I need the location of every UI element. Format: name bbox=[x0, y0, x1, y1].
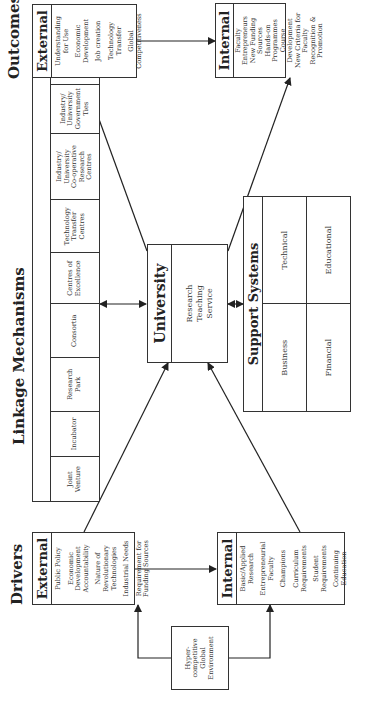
list-item: Course Development bbox=[280, 18, 294, 62]
outcomes-title: Outcomes bbox=[5, 0, 23, 79]
linkage-cells: Joint Venture Incubator Research Park Co… bbox=[51, 31, 99, 501]
drivers-internal-header: Internal bbox=[218, 533, 237, 604]
list-item: Public Policy bbox=[55, 547, 63, 590]
list-item: Economic Development bbox=[75, 19, 90, 63]
drivers-internal-list: Basic/Applied Research Entrepreneurial F… bbox=[237, 533, 354, 604]
support-cell-financial: Financial bbox=[307, 304, 350, 412]
list-item: Global Competitiveness bbox=[128, 13, 143, 68]
university-box: University Research Teaching Service bbox=[147, 244, 228, 363]
list-item: Recognition & Promotion bbox=[310, 16, 324, 64]
list-item: Student Requirements bbox=[313, 545, 328, 592]
linkage-title: Linkage Mechanisms bbox=[10, 267, 28, 445]
drivers-title: Drivers bbox=[8, 544, 26, 605]
outcomes-internal-header: Internal bbox=[216, 4, 234, 77]
outcomes-internal-list: Faculty Entrepreneurs New Funding Source… bbox=[234, 4, 325, 77]
list-item: Hands-on Programmes bbox=[265, 19, 279, 62]
list-item: Entrepreneurial Faculty bbox=[260, 542, 275, 596]
linkage-cell: Industry/ University Government Ties bbox=[51, 84, 99, 133]
outcomes-external-list: Understanding for Use Economic Developme… bbox=[52, 5, 148, 77]
environment-box: Hyper- competitive Global Environment bbox=[171, 626, 229, 690]
list-item: New Funding Sources bbox=[250, 18, 264, 63]
support-cell-technical: Technical bbox=[263, 197, 306, 304]
university-linkage-diagram: Drivers Linkage Mechanisms Outcomes Exte… bbox=[0, 0, 373, 701]
list-item: Champions bbox=[280, 550, 288, 587]
list-item: Economic Development Accountability bbox=[68, 544, 91, 592]
linkage-cell: Joint Venture bbox=[51, 456, 99, 501]
environment-label: Hyper- competitive Global Environment bbox=[185, 636, 215, 679]
linkage-box: Joint Venture Incubator Research Park Co… bbox=[32, 30, 100, 502]
linkage-cell: Industry/ University Co-operative Resear… bbox=[51, 133, 99, 200]
list-item: Continuing Education bbox=[333, 550, 348, 587]
list-item: Nature of Revolutionary Technologies bbox=[95, 545, 118, 592]
list-item: Job creation bbox=[95, 21, 103, 62]
linkage-cell: Consortia bbox=[51, 303, 99, 357]
linkage-header-band bbox=[33, 31, 51, 501]
outcomes-internal-box: Internal Faculty Entrepreneurs New Fundi… bbox=[215, 3, 286, 78]
support-cell-educational: Educational bbox=[307, 197, 350, 304]
drivers-external-box: External Public Policy Economic Developm… bbox=[32, 532, 135, 605]
drivers-external-list: Public Policy Economic Development Accou… bbox=[52, 533, 156, 604]
list-item: Understanding for Use bbox=[55, 16, 70, 66]
drivers-internal-box: Internal Basic/Applied Research Entrepre… bbox=[217, 532, 345, 605]
support-cell-business: Business bbox=[263, 304, 306, 412]
outcomes-external-box: External Understanding for Use Economic … bbox=[32, 4, 137, 78]
support-systems-box: Support Systems Business Technical Finan… bbox=[243, 196, 351, 412]
linkage-cell: Incubator bbox=[51, 411, 99, 457]
support-systems-header: Support Systems bbox=[244, 197, 263, 411]
university-functions: Research Teaching Service bbox=[185, 285, 215, 323]
list-item: Faculty Entrepreneurs bbox=[235, 16, 249, 65]
list-item: Technology Transfer bbox=[108, 22, 123, 60]
linkage-cell: Centres of Excellence bbox=[51, 252, 99, 303]
list-item: Curriculum Requirements bbox=[293, 545, 308, 592]
list-item: Basic/Applied Research bbox=[240, 546, 255, 592]
list-item: Industrial Needs bbox=[123, 541, 131, 597]
list-item: New Criteria for Faculty bbox=[295, 13, 309, 68]
linkage-cell: Research Park bbox=[51, 357, 99, 411]
list-item: Requirement for Funding Sources bbox=[136, 540, 151, 597]
linkage-cell: Technology Transfer Centres bbox=[51, 199, 99, 252]
outcomes-external-header: External bbox=[33, 5, 52, 77]
drivers-external-header: External bbox=[33, 533, 52, 604]
university-header: University bbox=[148, 245, 172, 362]
